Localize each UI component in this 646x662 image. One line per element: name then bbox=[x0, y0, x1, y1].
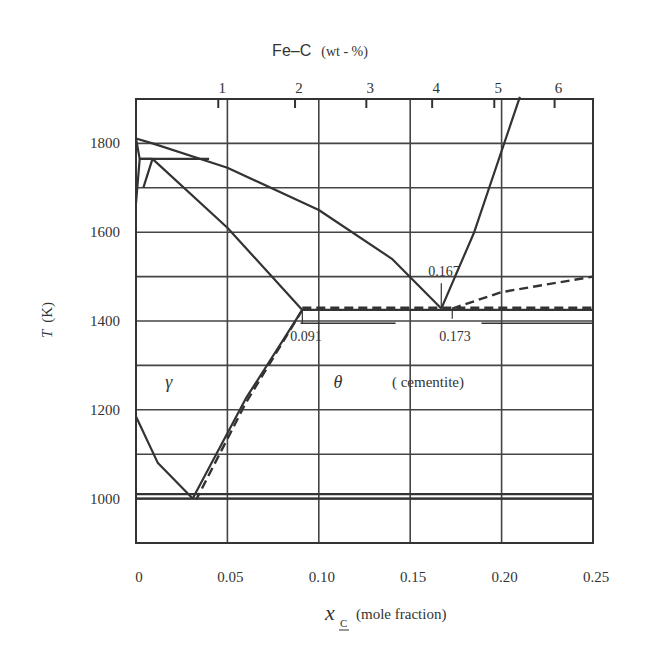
x-tick-label: 0.25 bbox=[583, 569, 609, 585]
y-tick-label: 1800 bbox=[90, 135, 120, 151]
x-tick-label: 0.20 bbox=[491, 569, 517, 585]
x-tick-label: 0.05 bbox=[217, 569, 243, 585]
phase-diagram: Fe–C (wt - %) 123456 00.050.100.150.200.… bbox=[0, 0, 646, 662]
top-tick-label: 1 bbox=[219, 80, 227, 96]
phase-label-gamma: γ bbox=[165, 372, 173, 392]
x-axis-label: x C (mole fraction) bbox=[324, 600, 446, 630]
phase-labels: γθ( cementite) bbox=[165, 372, 464, 392]
phase-boundary bbox=[196, 310, 302, 500]
top-tick-label: 2 bbox=[295, 80, 303, 96]
annotation-label: 0.173 bbox=[439, 329, 471, 344]
phase-boundary bbox=[143, 159, 152, 188]
phase-boundaries bbox=[136, 97, 593, 500]
x-axis-ticks: 00.050.100.150.200.25 bbox=[135, 569, 609, 585]
annotation-label: 0.167 bbox=[428, 264, 460, 279]
y-tick-label: 1600 bbox=[90, 224, 120, 240]
x-tick-label: 0.10 bbox=[309, 569, 335, 585]
phase-boundary bbox=[136, 417, 193, 499]
top-tick-label: 4 bbox=[432, 80, 440, 96]
y-tick-label: 1000 bbox=[90, 491, 120, 507]
x-tick-label: 0.15 bbox=[400, 569, 426, 585]
phase-label-theta: θ bbox=[333, 372, 342, 392]
y-tick-label: 1400 bbox=[90, 313, 120, 329]
phase-label-cementite: ( cementite) bbox=[392, 374, 464, 391]
svg-text:(mole fraction): (mole fraction) bbox=[356, 606, 446, 623]
x-tick-label: 0 bbox=[135, 569, 143, 585]
y-tick-label: 1200 bbox=[90, 402, 120, 418]
svg-text:x: x bbox=[324, 600, 335, 625]
top-tick-label: 5 bbox=[495, 80, 503, 96]
top-tick-label: 3 bbox=[367, 80, 375, 96]
chart-title: Fe–C (wt - %) bbox=[272, 42, 368, 60]
svg-text:C: C bbox=[340, 617, 347, 629]
top-tick-label: 6 bbox=[555, 80, 563, 96]
top-axis-wt-percent: 123456 bbox=[218, 80, 563, 108]
phase-boundary bbox=[136, 139, 441, 309]
y-axis-ticks: 10001200140016001800 bbox=[90, 135, 120, 506]
annotation-label: 0.091 bbox=[290, 329, 322, 344]
phase-boundary bbox=[452, 277, 593, 309]
y-axis-label: T (K) bbox=[39, 302, 56, 338]
